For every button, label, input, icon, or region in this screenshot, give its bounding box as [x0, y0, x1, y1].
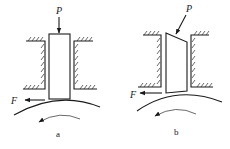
hatching: [140, 31, 160, 87]
friction-f-label: F: [10, 95, 18, 106]
panel-a-caption: a: [56, 129, 60, 139]
right-guide-wall: [191, 31, 213, 87]
cylinder-surface: [14, 100, 100, 115]
right-guide-wall: [74, 37, 97, 89]
diagram-canvas: P: [0, 0, 230, 149]
block: [49, 34, 70, 99]
force-p-arrow: [176, 15, 186, 34]
force-p-label: P: [55, 5, 62, 16]
hatching: [24, 37, 44, 89]
panel-a: P: [10, 5, 100, 139]
hatching: [192, 31, 212, 87]
left-guide-wall: [23, 37, 45, 89]
force-p-label: P: [185, 3, 192, 14]
panel-b: P: [129, 3, 222, 137]
block-slanted: [166, 33, 187, 93]
panel-b-caption: b: [174, 127, 179, 137]
friction-f-label: F: [129, 89, 137, 100]
rotation-arrow: [39, 115, 80, 122]
left-guide-wall: [138, 31, 161, 87]
cylinder-surface: [137, 95, 222, 111]
hatching: [75, 37, 95, 89]
rotation-arrow: [155, 109, 196, 116]
